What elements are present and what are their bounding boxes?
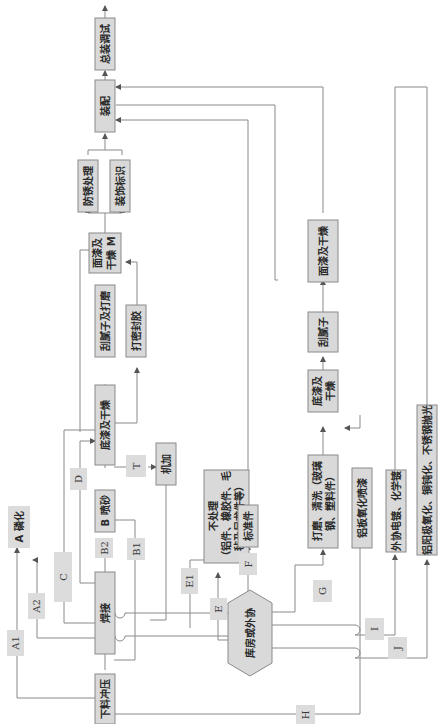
svg-text:标准件: 标准件 xyxy=(242,511,254,542)
svg-text:I: I xyxy=(369,627,380,631)
svg-text:焊接: 焊接 xyxy=(99,603,111,623)
tag-D: D xyxy=(70,468,87,490)
tag-F: F xyxy=(239,553,257,575)
svg-text:干燥: 干燥 xyxy=(324,380,336,401)
svg-text:不处理: 不处理 xyxy=(207,501,219,531)
svg-text:打密封胶: 打密封胶 xyxy=(130,311,142,351)
svg-text:刮腻子: 刮腻子 xyxy=(317,317,329,347)
svg-text:打磨、清洗（玻璃: 打磨、清洗（玻璃 xyxy=(311,461,323,541)
tag-C: C xyxy=(54,552,72,602)
svg-text:F: F xyxy=(243,560,254,567)
process-flowchart: 总装调试 装配 防锈处理 装饰标识 面漆及 干燥 M 刮腻子及打磨 打密封胶 底… xyxy=(0,0,445,724)
tag-J: J xyxy=(388,637,407,659)
tag-G: G xyxy=(313,580,332,602)
node-sandblast: B 喷砂 xyxy=(95,490,115,532)
node-anodizing: 铝阳极氧化、铜钝化、不锈钢抛光 xyxy=(417,405,437,555)
node-blanking: 下料冲压 xyxy=(95,674,115,724)
node-marking: 装饰标识 xyxy=(110,160,130,212)
node-sealant: 打密封胶 xyxy=(126,305,146,357)
node-putty-sanding: 刮腻子及打磨 xyxy=(95,285,115,357)
node-aluminum-oxidation-spray: 铝板氧化喷漆 xyxy=(352,468,372,548)
svg-text:铝阳极氧化、铜钝化、不锈钢抛光: 铝阳极氧化、铜钝化、不锈钢抛光 xyxy=(421,405,433,555)
svg-text:库房或外协: 库房或外协 xyxy=(244,608,256,658)
svg-text:A1: A1 xyxy=(10,636,21,651)
node-right-putty: 刮腻子 xyxy=(308,312,338,352)
svg-text:防锈处理: 防锈处理 xyxy=(82,166,94,206)
svg-text:底漆及: 底漆及 xyxy=(311,375,323,406)
svg-text:T: T xyxy=(131,462,142,469)
node-standard-parts: 标准件 xyxy=(238,505,258,547)
tag-E1: E1 xyxy=(181,568,198,594)
tag-I: I xyxy=(365,618,384,640)
svg-text:装饰标识: 装饰标识 xyxy=(114,166,126,207)
node-right-primer: 底漆及 干燥 xyxy=(308,370,338,412)
node-welding: 焊接 xyxy=(95,572,115,654)
tag-H: H xyxy=(296,705,315,724)
svg-text:（铝件、橡胶件、毛: （铝件、橡胶件、毛 xyxy=(220,471,232,561)
svg-text:面漆及: 面漆及 xyxy=(91,237,103,268)
svg-text:C: C xyxy=(58,573,69,581)
svg-text:总装调试: 总装调试 xyxy=(99,24,111,64)
node-outsourced-plating: 外协电镀、化学镀 xyxy=(386,470,406,552)
node-topcoat-m: 面漆及 干燥 M xyxy=(89,233,121,273)
node-machining: 机加 xyxy=(156,443,176,485)
svg-text:外协电镀、化学镀: 外协电镀、化学镀 xyxy=(390,470,402,552)
node-phosphating: A 磷化 xyxy=(8,506,30,548)
svg-text:机加: 机加 xyxy=(160,454,172,474)
tag-E: E xyxy=(210,598,227,620)
node-primer: 底漆及干燥 xyxy=(95,385,115,465)
svg-text:E1: E1 xyxy=(184,574,195,588)
node-right-topcoat: 面漆及干燥 xyxy=(308,220,338,282)
svg-text:铝板氧化喷漆: 铝板氧化喷漆 xyxy=(356,478,368,538)
svg-text:底漆及干燥: 底漆及干燥 xyxy=(99,399,111,450)
tag-B1: B1 xyxy=(127,538,145,560)
svg-text:B1: B1 xyxy=(131,542,142,556)
tag-A2: A2 xyxy=(28,593,45,619)
node-final-test: 总装调试 xyxy=(95,18,115,70)
node-rustproof: 防锈处理 xyxy=(78,160,98,212)
svg-text:钢、塑料件）: 钢、塑料件） xyxy=(324,471,336,531)
node-assembly: 装配 xyxy=(95,80,115,132)
svg-text:H: H xyxy=(300,710,311,719)
svg-text:D: D xyxy=(73,475,84,483)
svg-text:干燥 M: 干燥 M xyxy=(105,236,117,269)
svg-text:装配: 装配 xyxy=(99,96,111,117)
svg-text:E: E xyxy=(213,605,224,612)
node-warehouse: 库房或外协 xyxy=(228,590,272,676)
svg-text:B2: B2 xyxy=(99,541,110,555)
svg-text:G: G xyxy=(317,587,328,595)
svg-text:刮腻子及打磨: 刮腻子及打磨 xyxy=(99,290,111,351)
svg-text:A 磷化: A 磷化 xyxy=(13,511,25,542)
tag-A1: A1 xyxy=(7,630,24,656)
svg-text:下料冲压: 下料冲压 xyxy=(99,679,111,719)
svg-text:B 喷砂: B 喷砂 xyxy=(99,495,111,526)
node-sanding-clean: 打磨、清洗（玻璃 钢、塑料件） xyxy=(308,455,338,548)
svg-text:J: J xyxy=(392,646,403,651)
svg-text:A2: A2 xyxy=(31,599,42,614)
tag-T: T xyxy=(126,455,146,477)
svg-text:面漆及干燥: 面漆及干燥 xyxy=(317,225,329,276)
tag-B2: B2 xyxy=(95,538,113,558)
